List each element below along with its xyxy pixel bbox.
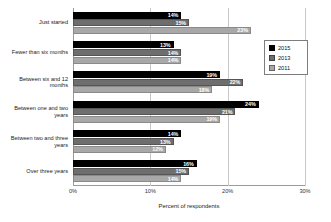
bar: 18% — [73, 86, 212, 93]
category-label: Over three years — [0, 168, 68, 175]
bar: 14% — [73, 57, 181, 64]
bar-value-label: 13% — [160, 42, 171, 48]
bar: 16% — [73, 160, 197, 167]
x-axis-title: Percent of respondents — [73, 203, 305, 209]
legend-label: 2013 — [278, 55, 290, 61]
bar-value-label: 15% — [176, 20, 187, 26]
bar-value-label: 13% — [160, 139, 171, 145]
bar-value-label: 21% — [222, 109, 233, 115]
gridline — [228, 8, 229, 186]
gridline — [305, 8, 306, 186]
category-label: Just started — [0, 19, 68, 26]
bar: 15% — [73, 168, 189, 175]
category-label: Between one and two years — [0, 105, 68, 118]
bar: 24% — [73, 101, 259, 108]
category-label: Between two and three years — [0, 135, 68, 148]
bar-value-label: 23% — [237, 27, 248, 33]
legend-swatch-icon — [269, 45, 275, 51]
bar-value-label: 15% — [176, 168, 187, 174]
bar-value-label: 18% — [199, 87, 210, 93]
x-tick-label: 0% — [69, 188, 77, 195]
legend-swatch-icon — [269, 65, 275, 71]
x-tick-label: 10% — [145, 188, 156, 195]
bar: 15% — [73, 19, 189, 26]
legend: 201520132011 — [264, 40, 308, 75]
bar-value-label: 14% — [168, 57, 179, 63]
bar: 13% — [73, 138, 174, 145]
bar: 14% — [73, 130, 181, 137]
bar: 21% — [73, 108, 235, 115]
bar-value-label: 14% — [168, 131, 179, 137]
bar-value-label: 12% — [152, 146, 163, 152]
category-label: Between six and 12 months — [0, 76, 68, 89]
bar-chart: Just startedFewer than six monthsBetween… — [0, 0, 331, 222]
bar: 19% — [73, 71, 220, 78]
bar: 19% — [73, 116, 220, 123]
legend-label: 2015 — [278, 45, 290, 51]
legend-item: 2013 — [269, 54, 304, 61]
bar: 13% — [73, 41, 174, 48]
bar-value-label: 24% — [245, 101, 256, 107]
bar-value-label: 19% — [206, 72, 217, 78]
legend-swatch-icon — [269, 55, 275, 61]
bar: 23% — [73, 27, 251, 34]
legend-item: 2011 — [269, 64, 304, 71]
x-tick-label: 20% — [222, 188, 233, 195]
bar-value-label: 22% — [230, 79, 241, 85]
bar-value-label: 14% — [168, 176, 179, 182]
bar: 14% — [73, 12, 181, 19]
category-label: Fewer than six months — [0, 49, 68, 56]
legend-label: 2011 — [278, 65, 290, 71]
bar-value-label: 19% — [206, 116, 217, 122]
bar-value-label: 14% — [168, 50, 179, 56]
bar-value-label: 16% — [183, 161, 194, 167]
x-tick-label: 30% — [299, 188, 310, 195]
bar: 12% — [73, 146, 166, 153]
bar-value-label: 14% — [168, 12, 179, 18]
bar: 14% — [73, 49, 181, 56]
legend-item: 2015 — [269, 44, 304, 51]
bar: 22% — [73, 79, 243, 86]
bar: 14% — [73, 175, 181, 182]
